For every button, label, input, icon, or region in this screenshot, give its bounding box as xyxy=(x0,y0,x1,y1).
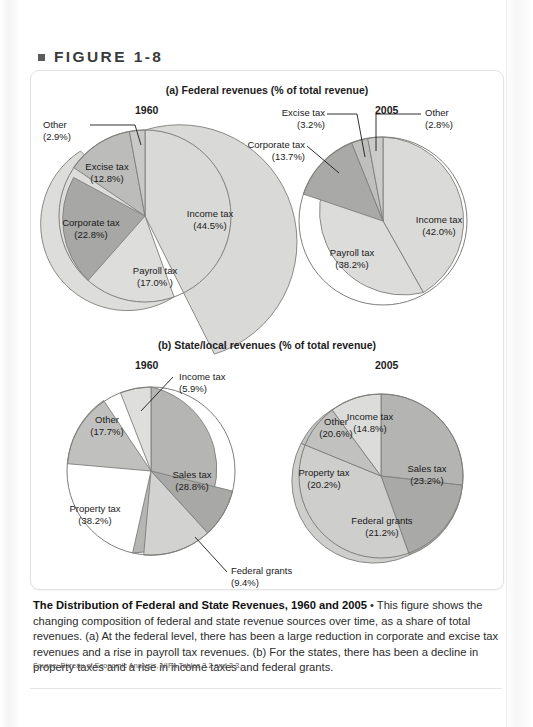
pie-state-2005 xyxy=(31,71,503,589)
page-gutter-right xyxy=(507,0,533,727)
label-state-2005-grants: Federal grants(21.2%) xyxy=(336,515,428,538)
figure-header: FIGURE 1-8 xyxy=(38,48,163,66)
figure-source: Source: Bureau of Economic Analysis, NIP… xyxy=(33,661,499,670)
label-state-2005-sales: Sales tax(23.2%) xyxy=(393,463,461,486)
label-state-2005-property: Property tax(20.2%) xyxy=(283,467,365,490)
bottom-divider xyxy=(30,688,502,689)
caption-headline: The Distribution of Federal and State Re… xyxy=(33,599,367,611)
page-gutter-left xyxy=(0,0,18,727)
square-bullet-icon xyxy=(38,54,45,61)
page-edge-line xyxy=(506,0,507,727)
figure-card: (a) Federal revenues (% of total revenue… xyxy=(30,70,504,590)
label-state-2005-other: Other(20.6%) xyxy=(305,416,367,439)
figure-page: FIGURE 1-8 (a) Federal revenues (% of to… xyxy=(0,0,533,727)
figure-number-label: FIGURE 1-8 xyxy=(54,48,163,66)
caption-separator: • xyxy=(367,599,377,611)
